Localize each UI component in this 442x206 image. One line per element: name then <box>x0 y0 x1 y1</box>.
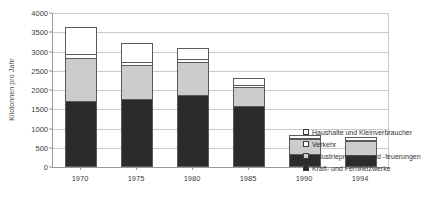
x-tick-mark <box>192 167 193 170</box>
y-tick-label: 3000 <box>31 47 48 56</box>
y-tick-label: 4000 <box>31 9 48 18</box>
y-tick-label: 500 <box>35 143 48 152</box>
stacked-bar-chart: Kilotonnen pro Jahr 05001000150020002500… <box>0 0 442 206</box>
legend-swatch-icon <box>303 141 309 147</box>
bar-segment <box>177 62 209 95</box>
legend-swatch-icon <box>303 153 309 159</box>
y-tick-label: 3500 <box>31 28 48 37</box>
bar-group <box>177 13 209 167</box>
bar-segment <box>121 65 153 100</box>
y-tick-label: 0 <box>44 163 48 172</box>
x-tick-label: 1990 <box>296 174 313 183</box>
y-axis-title-text: Kilotonnen pro Jahr <box>8 58 15 121</box>
legend-item[interactable]: Industrieprozesse und -feuerungen <box>303 150 439 162</box>
bar-stack <box>233 78 265 167</box>
bar-segment <box>233 106 265 167</box>
y-tick-label: 1000 <box>31 124 48 133</box>
x-tick-label: 1985 <box>240 174 257 183</box>
bar-segment <box>121 43 153 63</box>
bar-segment <box>65 58 97 102</box>
x-tick-label: 1994 <box>352 174 369 183</box>
legend-item[interactable]: Verkehr <box>303 138 439 150</box>
legend: Haushalte und KleinverbraucherVerkehrInd… <box>303 126 439 174</box>
y-axis-tick-labels: 05001000150020002500300035004000 <box>18 0 52 178</box>
bar-stack <box>177 48 209 167</box>
y-tick-label: 1500 <box>31 105 48 114</box>
legend-label: Kraft- und Fernheizwerke <box>312 165 391 172</box>
bar-segment <box>121 99 153 167</box>
bar-segment <box>65 101 97 167</box>
x-tick-mark <box>80 167 81 170</box>
x-tick-mark <box>248 167 249 170</box>
x-tick-label: 1975 <box>128 174 145 183</box>
legend-label: Industrieprozesse und -feuerungen <box>312 153 421 160</box>
legend-swatch-icon <box>303 129 309 135</box>
legend-swatch-icon <box>303 165 309 171</box>
bar-segment <box>177 95 209 167</box>
bar-segment <box>233 87 265 107</box>
bar-group <box>121 13 153 167</box>
bar-group <box>65 13 97 167</box>
legend-label: Haushalte und Kleinverbraucher <box>312 129 412 136</box>
x-tick-label: 1980 <box>184 174 201 183</box>
bar-group <box>233 13 265 167</box>
y-tick-label: 2500 <box>31 66 48 75</box>
x-tick-mark <box>136 167 137 170</box>
bar-stack <box>121 43 153 167</box>
legend-item[interactable]: Kraft- und Fernheizwerke <box>303 162 439 174</box>
legend-item[interactable]: Haushalte und Kleinverbraucher <box>303 126 439 138</box>
bar-stack <box>65 27 97 167</box>
legend-label: Verkehr <box>312 141 336 148</box>
y-tick-label: 2000 <box>31 86 48 95</box>
bar-segment <box>65 27 97 55</box>
x-tick-label: 1970 <box>72 174 89 183</box>
